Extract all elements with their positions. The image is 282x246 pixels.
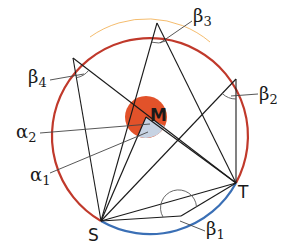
inscribed-angle-diagram: M S T β3 β4 β2 β1 α2 α1 — [0, 0, 282, 246]
label-T: T — [237, 182, 249, 202]
leader-alpha1 — [50, 132, 148, 173]
label-beta1: β1 — [206, 218, 225, 242]
label-alpha1: α1 — [30, 164, 50, 188]
label-beta4: β4 — [28, 66, 47, 90]
chord-B3-T — [157, 23, 236, 183]
label-alpha2: α2 — [16, 121, 36, 145]
angle-arc-beta3 — [152, 41, 166, 43]
chord-B1-S — [101, 216, 181, 221]
chord-B1-T — [181, 183, 236, 216]
label-S: S — [88, 225, 99, 245]
label-M: M — [150, 105, 167, 125]
radius-MS — [101, 117, 146, 221]
angle-arc-beta2 — [222, 94, 236, 100]
leader-beta2 — [231, 94, 258, 96]
leader-beta1 — [180, 221, 205, 231]
leader-beta3 — [160, 21, 192, 43]
angle-arc-beta1 — [161, 190, 197, 217]
label-beta3: β3 — [193, 5, 212, 29]
chord-ST — [101, 183, 236, 221]
chord-B4-S — [73, 58, 101, 221]
label-beta2: β2 — [259, 83, 278, 107]
